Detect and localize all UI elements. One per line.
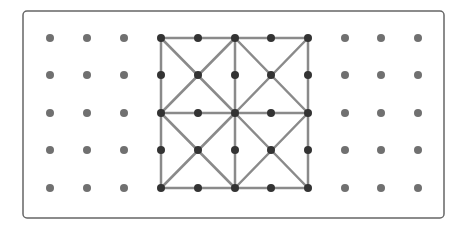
- peg-dot: [157, 71, 165, 79]
- peg-dot: [194, 34, 202, 42]
- peg-dot: [231, 146, 239, 154]
- peg-dot: [414, 71, 422, 79]
- peg-dot: [120, 146, 128, 154]
- peg-dot: [231, 71, 239, 79]
- peg-dot: [46, 184, 54, 192]
- peg-dot: [341, 146, 349, 154]
- peg-dot: [194, 71, 202, 79]
- peg-dot: [377, 109, 385, 117]
- peg-dot: [194, 146, 202, 154]
- peg-dot: [267, 146, 275, 154]
- peg-dot: [194, 184, 202, 192]
- peg-dot: [194, 109, 202, 117]
- peg-dot: [267, 71, 275, 79]
- peg-dot: [120, 109, 128, 117]
- peg-dot: [83, 109, 91, 117]
- peg-dot: [231, 184, 239, 192]
- peg-dot: [377, 71, 385, 79]
- peg-dot: [304, 109, 312, 117]
- peg-dot: [267, 34, 275, 42]
- peg-dot: [304, 71, 312, 79]
- peg-dot: [83, 184, 91, 192]
- peg-dot: [120, 34, 128, 42]
- peg-dot: [231, 34, 239, 42]
- peg-dot: [120, 71, 128, 79]
- peg-dot: [304, 146, 312, 154]
- peg-dot: [304, 34, 312, 42]
- peg-dot: [120, 184, 128, 192]
- peg-dot: [341, 34, 349, 42]
- peg-dot: [46, 71, 54, 79]
- peg-dot: [304, 184, 312, 192]
- peg-dot: [46, 109, 54, 117]
- peg-dot: [341, 184, 349, 192]
- peg-dot: [267, 109, 275, 117]
- peg-dot: [377, 184, 385, 192]
- peg-dot: [46, 146, 54, 154]
- peg-dot: [414, 34, 422, 42]
- peg-dot: [267, 184, 275, 192]
- peg-dot: [341, 109, 349, 117]
- peg-dot: [46, 34, 54, 42]
- peg-dot: [414, 146, 422, 154]
- peg-dot: [231, 109, 239, 117]
- peg-dot: [341, 71, 349, 79]
- peg-dot: [157, 109, 165, 117]
- peg-dot: [157, 146, 165, 154]
- peg-dot: [83, 146, 91, 154]
- peg-dot: [83, 71, 91, 79]
- peg-dot: [157, 184, 165, 192]
- peg-dot: [414, 109, 422, 117]
- peg-dot: [157, 34, 165, 42]
- peg-dot: [83, 34, 91, 42]
- geoboard-diagram: [0, 0, 464, 230]
- peg-dot: [414, 184, 422, 192]
- peg-dot: [377, 146, 385, 154]
- peg-dot: [377, 34, 385, 42]
